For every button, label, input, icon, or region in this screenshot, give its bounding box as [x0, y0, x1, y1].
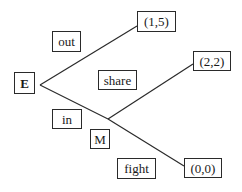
payoff-1-5: (1,5): [137, 11, 176, 32]
game-tree-diagram: E out in M share fight (1,5) (2,2) (0,0): [0, 0, 242, 192]
action-share: share: [98, 70, 137, 90]
action-fight-label: fight: [124, 162, 149, 175]
action-in-label: in: [62, 113, 72, 126]
node-m: M: [90, 129, 110, 149]
payoff-2-2: (2,2): [193, 51, 231, 71]
action-in: in: [52, 109, 82, 129]
payoff-0-0: (0,0): [184, 158, 222, 178]
action-out-label: out: [58, 35, 75, 48]
node-e-label: E: [20, 77, 29, 90]
action-fight: fight: [117, 158, 156, 179]
action-share-label: share: [104, 74, 131, 87]
payoff-0-0-label: (0,0): [191, 162, 216, 175]
action-out: out: [52, 31, 81, 52]
payoff-2-2-label: (2,2): [200, 55, 225, 68]
node-e: E: [14, 72, 35, 94]
payoff-1-5-label: (1,5): [144, 15, 169, 28]
node-m-label: M: [94, 133, 106, 146]
